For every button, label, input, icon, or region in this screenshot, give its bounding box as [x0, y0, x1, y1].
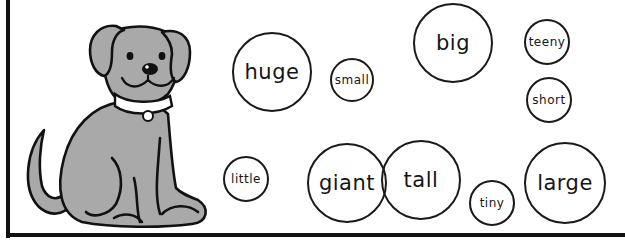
word-label: little [231, 172, 261, 186]
left-border-line [6, 0, 10, 238]
word-bubble-teeny[interactable]: teeny [524, 19, 570, 65]
word-label: tiny [480, 196, 505, 210]
word-label: small [335, 73, 369, 87]
word-bubble-large[interactable]: large [524, 142, 606, 224]
word-bubble-small[interactable]: small [330, 58, 374, 102]
dog-icon [12, 18, 212, 230]
word-label: teeny [529, 35, 566, 49]
word-label: short [532, 93, 565, 107]
worksheet: hugesmallbigteenyshortlittlegianttalltin… [0, 0, 625, 242]
word-bubble-little[interactable]: little [223, 156, 269, 202]
word-bubble-tiny[interactable]: tiny [469, 180, 515, 226]
word-bubble-short[interactable]: short [526, 77, 572, 123]
word-bubble-giant[interactable]: giant [307, 143, 387, 223]
word-label: big [436, 31, 470, 55]
word-bubble-huge[interactable]: huge [232, 32, 312, 112]
word-bubble-tall[interactable]: tall [381, 140, 461, 220]
word-bubble-big[interactable]: big [413, 3, 493, 83]
bottom-border-line [6, 233, 625, 237]
word-label: giant [319, 171, 375, 195]
word-label: large [537, 171, 593, 195]
word-label: tall [404, 168, 439, 192]
word-label: huge [245, 60, 300, 84]
